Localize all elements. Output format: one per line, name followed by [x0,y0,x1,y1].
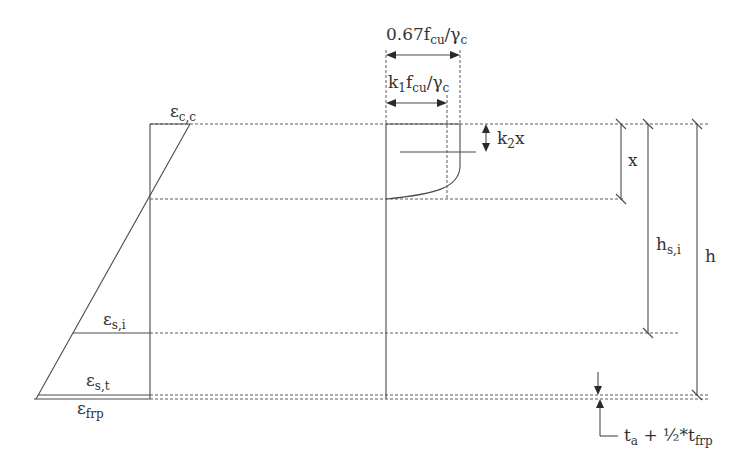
hsi-dimension [643,119,653,338]
label-eps-si: εs,i [103,309,126,332]
k2x-dimension [482,124,490,152]
label-hsi: hs,i [656,234,681,257]
parabolic-stress-curve [386,124,460,199]
label-eps-cc: εc,c [170,101,196,124]
stress-diagram [386,50,476,399]
label-x: x [628,150,638,170]
label-h: h [705,246,716,266]
label-eps-st: εs,t [86,370,110,393]
avg-stress-dimension [386,99,447,107]
label-k2x: k2x [497,128,525,151]
x-dimension [616,119,626,204]
label-avg-stress: k1fcu/γc [388,72,450,95]
h-dimension [692,119,702,400]
label-eps-frp: εfrp [77,398,104,421]
label-peak-stress: 0.67fcu/γc [386,24,468,47]
peak-stress-dimension [386,51,460,59]
strain-diagram [34,124,190,399]
strain-profile [36,124,190,399]
section-diagram: εc,c εs,i εs,t εfrp 0.67fcu/γc k1fcu/γc … [0,0,749,469]
frp-offset-dimension [594,372,618,436]
label-frp-offset: ta + ½*tfrp [624,425,713,448]
